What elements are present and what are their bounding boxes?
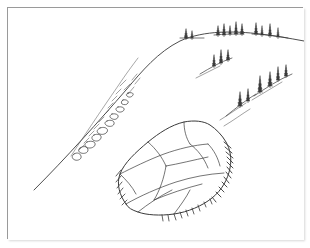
landscape-sketch xyxy=(8,8,304,240)
drawing-canvas xyxy=(0,0,310,248)
image-frame xyxy=(7,7,303,239)
